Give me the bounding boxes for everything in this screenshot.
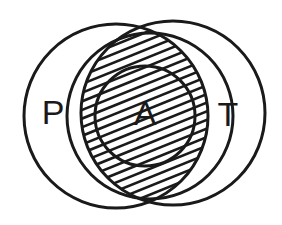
- label-a: A: [134, 94, 157, 132]
- hatch-line: [0, 0, 282, 9]
- hatch-line: [0, 0, 282, 2]
- venn-diagram-canvas: P A T: [0, 0, 282, 225]
- hatch-line: [0, 222, 282, 225]
- hatch-line: [0, 207, 282, 225]
- venn-diagram-svg: P A T: [0, 0, 282, 225]
- hatch-line: [0, 148, 282, 225]
- label-p: P: [42, 93, 65, 131]
- hatch-line: [0, 215, 282, 225]
- hatch-line: [0, 0, 282, 47]
- label-t: T: [218, 95, 239, 133]
- hatch-line: [0, 0, 282, 24]
- hatch-line: [0, 0, 282, 17]
- hatch-line: [0, 140, 282, 225]
- hatch-line: [0, 0, 282, 165]
- hatch-line: [0, 177, 282, 225]
